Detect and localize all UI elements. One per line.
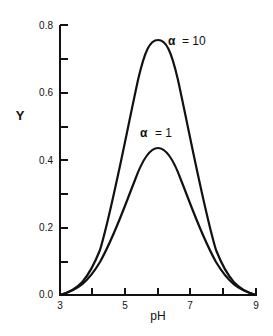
x-tick-label: 3 (57, 300, 63, 311)
x-ticks (92, 288, 256, 295)
annotation-value: = 1 (155, 126, 172, 140)
curve-alpha-10 (60, 40, 256, 295)
alpha-symbol: α (140, 126, 148, 140)
x-tick-label: 9 (253, 300, 259, 311)
y-tick-label: 0.8 (39, 20, 53, 31)
alpha-symbol: α (168, 34, 176, 48)
x-axis-label: pH (150, 309, 165, 323)
x-tick-label: 7 (187, 300, 193, 311)
y-tick-label: 0.4 (39, 155, 53, 166)
y-ticks (60, 25, 68, 262)
x-tick-label: 5 (122, 300, 128, 311)
chart: 0.8 0.6 0.4 0.2 0.0 3 5 7 9 Y pH α = 10 … (0, 0, 273, 336)
y-tick-label: 0.2 (39, 222, 53, 233)
annotation-value: = 10 (182, 34, 206, 48)
y-tick-label: 0.6 (39, 87, 53, 98)
annotation-alpha-10: α = 10 (168, 34, 206, 48)
annotation-alpha-1: α = 1 (140, 126, 172, 140)
y-tick-label: 0.0 (39, 289, 53, 300)
y-axis-label: Y (16, 108, 25, 123)
